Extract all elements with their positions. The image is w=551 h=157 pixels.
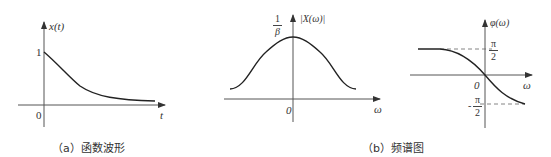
plot-b-x-label: ω	[374, 104, 382, 115]
plot-b-y-label: |X(ω)|	[300, 14, 325, 24]
plot-a-origin: 0	[36, 110, 42, 121]
plot-b-peak-num: 1	[275, 14, 280, 24]
plot-c-x-label: ω	[523, 80, 531, 91]
plot-c-phase-curve	[418, 49, 525, 104]
plot-a-y-label: x(t)	[49, 21, 64, 32]
plot-c-lower-den: 2	[475, 108, 480, 118]
plot-b-peak-label: 1 β	[273, 14, 282, 37]
plot-c-lower-sign: -	[468, 101, 471, 111]
plot-a-tick-1: 1	[36, 47, 42, 58]
plot-c-y-label: φ(ω)	[490, 18, 509, 28]
plot-b-magnitude-spectrum	[224, 15, 380, 122]
plot-a-x-label: t	[160, 110, 163, 121]
plot-c-upper-den: 2	[491, 52, 496, 62]
plot-c-origin: 0	[474, 80, 480, 91]
plot-c-lower-num: π	[475, 95, 480, 105]
caption-b: （b）频谱图	[362, 139, 424, 155]
plot-c-lower-label: π 2	[473, 95, 482, 118]
plot-b-peak-den: β	[275, 27, 280, 37]
plot-b-origin: 0	[286, 105, 292, 116]
plot-c-upper-num: π	[491, 39, 496, 49]
plot-a-decay-curve	[44, 52, 155, 101]
plot-c-phase-spectrum	[410, 20, 532, 128]
plot-c-upper-label: π 2	[489, 39, 498, 62]
caption-a: （a）函数波形	[52, 139, 125, 155]
